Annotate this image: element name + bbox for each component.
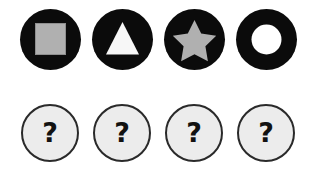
ring-icon [236,9,297,70]
token-triangle[interactable] [92,9,153,70]
question-mark-icon: ? [114,119,130,146]
shape-token-row [0,9,321,71]
diagram-canvas: ? ? ? ? [0,0,321,179]
question-mark-icon: ? [186,119,202,146]
question-mark-icon: ? [42,119,58,146]
unknown-slot-3[interactable]: ? [165,104,223,162]
token-square[interactable] [20,9,81,70]
unknown-slot-4[interactable]: ? [237,104,295,162]
unknown-slot-row: ? ? ? ? [0,104,321,164]
token-ring[interactable] [236,9,297,70]
square-icon [20,9,81,70]
unknown-slot-2[interactable]: ? [93,104,151,162]
star-icon [164,9,225,70]
unknown-slot-1[interactable]: ? [21,104,79,162]
token-star[interactable] [164,9,225,70]
triangle-icon [92,9,153,70]
question-mark-icon: ? [258,119,274,146]
